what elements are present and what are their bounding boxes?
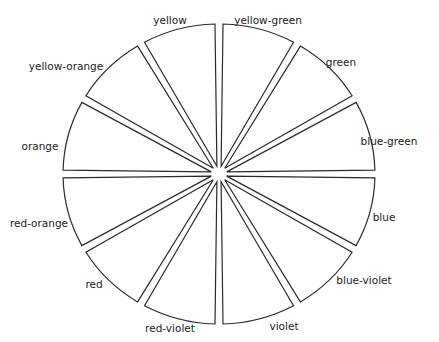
- label-green: green: [326, 56, 356, 68]
- label-yellow-green: yellow-green: [234, 14, 302, 26]
- label-red: red: [85, 278, 102, 290]
- label-blue-green: blue-green: [361, 135, 418, 147]
- label-yellow-orange: yellow-orange: [29, 60, 103, 72]
- color-wheel: [0, 0, 439, 342]
- color-wheel-diagram: yellow yellow-green green blue-green blu…: [0, 0, 439, 342]
- label-orange: orange: [22, 140, 59, 152]
- label-red-violet: red-violet: [145, 322, 195, 334]
- label-blue: blue: [373, 211, 396, 223]
- label-yellow: yellow: [153, 14, 187, 26]
- label-red-orange: red-orange: [10, 217, 68, 229]
- label-violet: violet: [269, 320, 298, 332]
- label-blue-violet: blue-violet: [336, 274, 391, 286]
